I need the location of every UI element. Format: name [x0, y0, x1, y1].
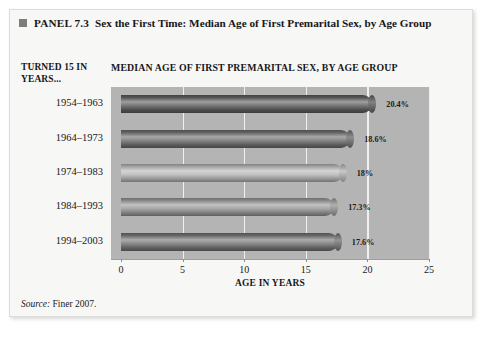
category-label: 1994–2003	[21, 235, 103, 246]
source-text: Finer 2007.	[53, 299, 97, 309]
x-tick-mark	[429, 259, 430, 262]
bar[interactable]	[121, 130, 350, 148]
bar-row: 17.6%	[111, 225, 429, 259]
bar-end-cap	[346, 130, 354, 148]
x-tick-mark	[306, 259, 307, 262]
bar[interactable]	[121, 233, 338, 251]
bar[interactable]	[121, 164, 343, 182]
panel-number: PANEL 7.3	[34, 17, 89, 29]
panel-title-text: Sex the First Time: Median Age of First …	[95, 17, 431, 29]
x-tick-label: 20	[352, 264, 382, 275]
bar-row: 18.6%	[111, 121, 429, 155]
panel-figure: PANEL 7.3Sex the First Time: Median Age …	[0, 0, 494, 340]
bar-row: 20.4%	[111, 87, 429, 121]
bar-end-cap	[334, 233, 342, 251]
bar-end-cap	[330, 198, 338, 216]
x-axis-title: AGE IN YEARS	[111, 278, 429, 288]
x-axis-line	[111, 259, 429, 260]
category-label: 1974–1983	[21, 166, 103, 177]
bar-end-cap	[368, 95, 376, 113]
category-label: 1954–1963	[21, 97, 103, 108]
bar-end-cap	[339, 164, 347, 182]
bar-row: 18%	[111, 156, 429, 190]
row-header-label: TURNED 15 IN YEARS...	[21, 62, 93, 85]
category-label: 1964–1973	[21, 132, 103, 143]
bar-value-label: 18.6%	[364, 135, 387, 144]
bar-value-label: 18%	[357, 169, 373, 178]
bar-value-label: 20.4%	[386, 100, 409, 109]
bar[interactable]	[121, 95, 372, 113]
x-tick-mark	[121, 259, 122, 262]
plot-area: 20.4%18.6%18%17.3%17.6%	[111, 87, 429, 259]
bar-value-label: 17.6%	[352, 238, 375, 247]
bar[interactable]	[121, 198, 334, 216]
panel-title: PANEL 7.3Sex the First Time: Median Age …	[19, 15, 449, 31]
x-tick-label: 0	[106, 264, 136, 275]
x-tick-mark	[244, 259, 245, 262]
filled-square-icon	[19, 19, 27, 27]
x-tick-label: 5	[168, 264, 198, 275]
x-tick-label: 10	[229, 264, 259, 275]
source-note: Source: Finer 2007.	[21, 299, 96, 309]
source-label: Source:	[21, 299, 50, 309]
gridline	[429, 87, 430, 259]
x-tick-label: 15	[291, 264, 321, 275]
chart-title: MEDIAN AGE OF FIRST PREMARITAL SEX, BY A…	[111, 62, 398, 73]
x-tick-mark	[367, 259, 368, 262]
x-tick-mark	[183, 259, 184, 262]
x-tick-label: 25	[414, 264, 444, 275]
bar-row: 17.3%	[111, 190, 429, 224]
bar-value-label: 17.3%	[348, 203, 371, 212]
category-label: 1984–1993	[21, 200, 103, 211]
